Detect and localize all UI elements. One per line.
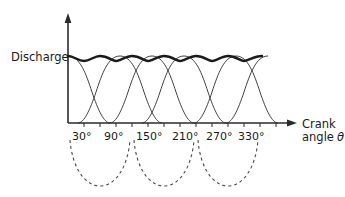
x-axis-group bbox=[68, 119, 297, 126]
cylinder-2c-curve bbox=[110, 56, 152, 123]
tick-label-30: 30° bbox=[72, 130, 92, 143]
x-axis-arrow-icon bbox=[287, 119, 297, 126]
tick-label-150: 150° bbox=[136, 130, 163, 143]
y-axis-group bbox=[65, 13, 72, 123]
cylinder-3c-curve bbox=[152, 56, 194, 123]
y-axis-arrow-icon bbox=[65, 13, 72, 23]
cylinder-2b-curve bbox=[120, 56, 162, 123]
suction-curve-1 bbox=[70, 140, 130, 186]
cylinder-3b-curve bbox=[194, 56, 236, 123]
envelope-path bbox=[68, 56, 262, 61]
x-tick-labels: 30° 90° 150° 210° 270° 330° bbox=[72, 130, 265, 143]
suction-stroke-curves bbox=[70, 140, 258, 186]
tick-label-330: 330° bbox=[238, 130, 265, 143]
figure-container: Discharge 30° 90° 150° 210° 270° 330° Cr… bbox=[0, 0, 345, 197]
cylinder-2-curve bbox=[78, 56, 120, 123]
tick-label-90: 90° bbox=[104, 130, 124, 143]
x-axis-label-word: angle bbox=[302, 130, 334, 144]
tick-label-210: 210° bbox=[172, 130, 199, 143]
cylinder-1d-curve bbox=[226, 56, 268, 123]
theta-symbol: θ bbox=[337, 130, 344, 144]
discharge-diagram: Discharge 30° 90° 150° 210° 270° 330° Cr… bbox=[0, 0, 345, 197]
y-axis-label: Discharge bbox=[11, 50, 69, 64]
resultant-envelope-curve bbox=[68, 56, 262, 61]
cylinder-discharge-curves bbox=[68, 56, 278, 123]
cylinder-1-curve bbox=[68, 56, 110, 123]
suction-curve-2 bbox=[134, 140, 194, 186]
cylinder-1c-curve bbox=[236, 56, 278, 123]
x-axis-label-line2: angleθ bbox=[302, 130, 344, 144]
cylinder-1b-curve bbox=[142, 56, 184, 123]
x-axis-label-line1: Crank bbox=[302, 117, 336, 131]
tick-label-270: 270° bbox=[206, 130, 233, 143]
cylinder-3-curve bbox=[184, 56, 226, 123]
suction-curve-3 bbox=[198, 140, 258, 186]
